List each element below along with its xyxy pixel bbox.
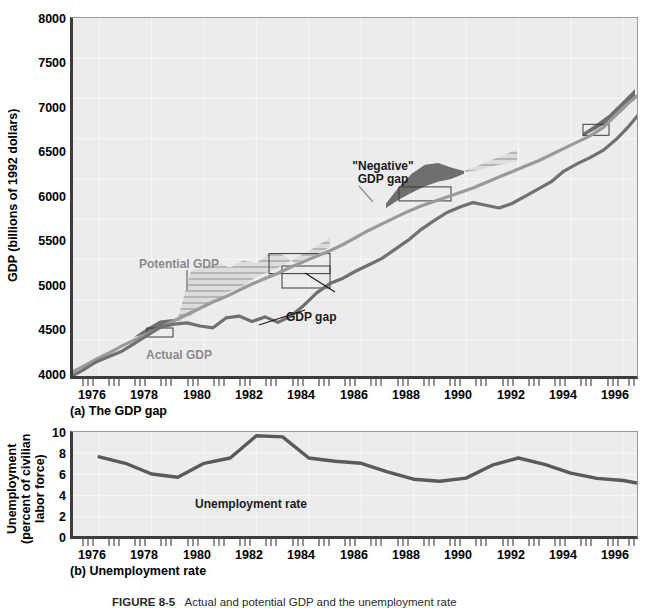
x-tick-b-1986: 1986 <box>332 549 376 562</box>
x-tick-1996: 1996 <box>593 389 637 402</box>
y-tick-10: 10 <box>40 427 66 440</box>
annotation-potential-gdp: Potential GDP <box>139 258 219 271</box>
y-tick-7500: 7500 <box>24 57 66 70</box>
x-tick-b-1992: 1992 <box>489 549 533 562</box>
panel-b-caption: (b) Unemployment rate <box>70 564 206 578</box>
panel-a-chart-svg <box>73 18 638 379</box>
y-tick-2: 2 <box>40 511 66 524</box>
x-tick-1990: 1990 <box>436 389 480 402</box>
panel-a-plot-area <box>70 17 638 379</box>
y-tick-6: 6 <box>40 469 66 482</box>
figure-gdp-gap-and-unemployment: GDP (billions of 1992 dollars) 8000 7500… <box>0 0 656 608</box>
x-tick-b-1996: 1996 <box>593 549 637 562</box>
x-tick-b-1976: 1976 <box>70 549 114 562</box>
y-tick-6500: 6500 <box>24 146 66 159</box>
y-tick-4000: 4000 <box>24 369 66 382</box>
x-tick-b-1982: 1982 <box>227 549 271 562</box>
x-tick-1988: 1988 <box>384 389 428 402</box>
x-tick-b-1980: 1980 <box>175 549 219 562</box>
x-tick-1984: 1984 <box>279 389 323 402</box>
panel-a-gdp-gap: GDP (billions of 1992 dollars) 8000 7500… <box>0 0 656 410</box>
unemployment-rate-line <box>99 436 638 484</box>
x-tick-1986: 1986 <box>332 389 376 402</box>
x-tick-b-1988: 1988 <box>384 549 428 562</box>
x-tick-1978: 1978 <box>122 389 166 402</box>
y-tick-7000: 7000 <box>24 102 66 115</box>
figure-caption: FIGURE 8-5 Actual and potential GDP and … <box>112 596 632 608</box>
panel-a-y-axis-label: GDP (billions of 1992 dollars) <box>6 40 22 350</box>
gap-callout-boxes <box>147 124 609 337</box>
annotation-actual-gdp: Actual GDP <box>146 349 212 362</box>
annotation-unemployment-rate: Unemployment rate <box>195 498 307 511</box>
x-tick-1992: 1992 <box>489 389 533 402</box>
panel-b-plot-area <box>70 431 638 539</box>
y-tick-6000: 6000 <box>24 191 66 204</box>
y-tick-4: 4 <box>40 490 66 503</box>
y-tick-8: 8 <box>40 448 66 461</box>
annotation-negative-gdp-gap: "Negative" GDP gap <box>331 160 435 187</box>
x-tick-b-1994: 1994 <box>541 549 585 562</box>
y-tick-5500: 5500 <box>24 235 66 248</box>
x-tick-b-1978: 1978 <box>122 549 166 562</box>
y-tick-0: 0 <box>40 532 66 545</box>
figure-caption-label: FIGURE 8-5 <box>112 596 175 608</box>
panel-b-gridlines <box>73 432 638 539</box>
panel-b-unemployment-rate: Unemployment (percent of civilian labor … <box>0 420 656 608</box>
x-tick-b-1984: 1984 <box>279 549 323 562</box>
x-tick-1994: 1994 <box>541 389 585 402</box>
x-tick-1980: 1980 <box>175 389 219 402</box>
actual-gdp-line <box>73 112 638 376</box>
x-tick-1982: 1982 <box>227 389 271 402</box>
y-tick-4500: 4500 <box>24 324 66 337</box>
panel-b-chart-svg <box>73 432 638 539</box>
x-tick-b-1990: 1990 <box>436 549 480 562</box>
positive-gap-region-1991 <box>465 150 517 173</box>
figure-caption-text: Actual and potential GDP and the unemplo… <box>184 596 456 608</box>
annotation-gdp-gap: GDP gap <box>286 311 336 324</box>
panel-a-caption: (a) The GDP gap <box>70 404 167 418</box>
y-tick-8000: 8000 <box>24 13 66 26</box>
y-tick-5000: 5000 <box>24 280 66 293</box>
x-tick-1976: 1976 <box>70 389 114 402</box>
